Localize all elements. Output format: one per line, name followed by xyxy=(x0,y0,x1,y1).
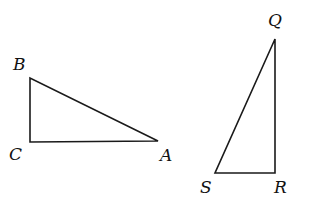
vertex-label-c: C xyxy=(9,144,22,164)
vertex-label-q: Q xyxy=(268,10,282,30)
geometry-diagram: B C A Q S R xyxy=(0,0,309,206)
triangle-bca: B C A xyxy=(9,54,172,165)
vertex-label-a: A xyxy=(158,145,172,165)
vertex-label-r: R xyxy=(273,177,287,197)
vertex-label-b: B xyxy=(12,54,26,74)
triangle-bca-outline xyxy=(30,78,158,142)
triangle-qsr: Q S R xyxy=(200,10,287,197)
triangle-qsr-outline xyxy=(215,39,275,173)
vertex-label-s: S xyxy=(200,177,212,197)
